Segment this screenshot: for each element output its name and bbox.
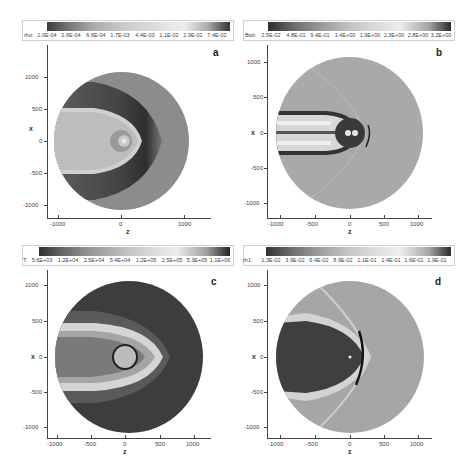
colorbar-tick: 6.4E-02 <box>309 257 328 263</box>
x-tick-label: 1000 <box>410 441 423 447</box>
x-tick <box>350 435 351 439</box>
colorbar-tick: 1.3E-02 <box>261 257 280 263</box>
x-tick-label: -500 <box>306 441 318 447</box>
field-plot-d <box>276 281 424 433</box>
colorbar-gradient-d <box>266 247 451 256</box>
panel-label-d: d <box>435 276 441 287</box>
y-axis-title: x <box>252 353 256 360</box>
y-tick <box>264 392 268 393</box>
y-tick <box>264 427 268 428</box>
colorbar-variable-d: rh1: <box>243 257 252 263</box>
y-tick <box>264 357 268 358</box>
x-axis-title: z <box>348 448 352 455</box>
y-tick-label: -1000 <box>244 424 259 430</box>
colorbar-tick: 1.9E-01 <box>427 257 446 263</box>
x-tick-label: 0 <box>348 441 351 447</box>
x-tick <box>280 435 281 439</box>
colorbar-tick: 1.6E-01 <box>404 257 423 263</box>
y-tick <box>264 321 268 322</box>
x-tick <box>384 435 385 439</box>
colorbar-tick: 1.4E-01 <box>381 257 400 263</box>
x-tick <box>315 435 316 439</box>
y-tick-label: 500 <box>253 318 263 324</box>
x-tick <box>418 435 419 439</box>
panel-d: rh1: 1.3E-02 3.9E-02 6.4E-02 8.9E-02 1.1… <box>0 0 466 473</box>
y-axis-d <box>267 270 268 439</box>
x-tick-label: -1000 <box>268 441 283 447</box>
y-tick-label: 1000 <box>247 282 260 288</box>
colorbar-tick: 1.1E-01 <box>357 257 376 263</box>
colorbar-tick: 3.9E-02 <box>285 257 304 263</box>
x-tick-label: 500 <box>379 441 389 447</box>
y-tick-label: -500 <box>251 389 263 395</box>
y-tick <box>264 285 268 286</box>
y-tick-label: 0 <box>260 354 263 360</box>
colorbar-tick: 8.9E-02 <box>333 257 352 263</box>
